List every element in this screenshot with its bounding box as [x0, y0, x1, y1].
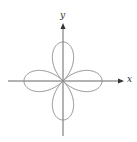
rose-curve-figure	[0, 0, 137, 142]
x-axis-arrow-icon	[118, 79, 124, 84]
y-axis-label: y	[60, 11, 65, 20]
x-axis	[8, 79, 124, 84]
x-axis-label: x	[127, 75, 132, 84]
y-axis-arrow-icon	[61, 23, 66, 29]
